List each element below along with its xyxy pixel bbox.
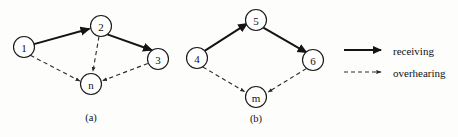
node-3-label: 3: [155, 54, 161, 66]
legend-item-receiving: receiving: [344, 45, 434, 57]
node-n: n: [81, 74, 102, 95]
node-m: m: [246, 87, 267, 108]
node-5: 5: [246, 10, 267, 31]
node-5-label: 5: [253, 15, 259, 27]
figure-root: 1 2 3 n (a): [0, 0, 458, 137]
legend: receiving overhearing: [344, 45, 446, 79]
edge-2-to-n: [93, 36, 99, 71]
node-m-label: m: [252, 92, 261, 104]
node-6-label: 6: [310, 55, 316, 67]
node-1: 1: [14, 37, 35, 58]
edge-1-to-2: [34, 29, 90, 44]
legend-item-overhearing: overhearing: [344, 67, 446, 79]
edge-4-to-m: [203, 67, 245, 92]
network-diagram-figure: 1 2 3 n (a): [0, 0, 458, 137]
node-3: 3: [148, 49, 169, 70]
edge-3-to-n: [103, 64, 148, 81]
caption-b: (b): [250, 113, 263, 125]
edge-5-to-6: [263, 28, 306, 53]
node-n-label: n: [88, 79, 94, 91]
node-1-label: 1: [21, 42, 27, 54]
legend-receiving-label: receiving: [393, 45, 434, 57]
legend-overhearing-label: overhearing: [393, 67, 446, 79]
node-2-label: 2: [98, 21, 104, 33]
node-2: 2: [91, 16, 112, 37]
node-6: 6: [303, 50, 324, 71]
node-4: 4: [187, 48, 208, 69]
panel-b-edges: [203, 24, 307, 92]
caption-a: (a): [85, 112, 97, 124]
edge-4-to-5: [205, 24, 248, 51]
panel-b: 4 5 6 m (b): [187, 10, 324, 126]
edge-1-to-n: [30, 55, 79, 81]
node-4-label: 4: [194, 53, 200, 65]
panel-a: 1 2 3 n (a): [14, 16, 169, 125]
edge-6-to-m: [268, 69, 306, 92]
edge-2-to-3: [107, 34, 152, 50]
